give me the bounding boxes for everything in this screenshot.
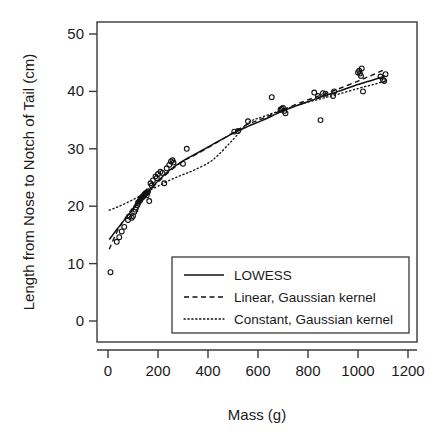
x-tick-label: 0	[104, 362, 112, 379]
y-axis-label: Length from Nose to Notch of Tail (cm)	[20, 54, 37, 311]
x-axis-label: Mass (g)	[228, 406, 286, 423]
legend: LOWESSLinear, Gaussian kernelConstant, G…	[172, 257, 409, 333]
plot-background	[0, 0, 446, 443]
y-tick-label: 0	[76, 312, 84, 329]
x-tick-label: 800	[295, 362, 320, 379]
chart-page: 01020304050 020040060080010001200 Mass (…	[0, 0, 446, 443]
x-tick-label: 200	[145, 362, 170, 379]
y-tick-label: 40	[67, 82, 84, 99]
scatter-plot: 01020304050 020040060080010001200 Mass (…	[0, 0, 446, 443]
legend-label: Constant, Gaussian kernel	[234, 312, 393, 327]
y-tick-label: 50	[67, 25, 84, 42]
x-tick-label: 1200	[391, 362, 424, 379]
y-tick-label: 10	[67, 255, 84, 272]
legend-label: LOWESS	[234, 268, 292, 283]
x-tick-label: 400	[195, 362, 220, 379]
x-tick-label: 1000	[341, 362, 374, 379]
x-tick-label: 600	[245, 362, 270, 379]
y-tick-label: 30	[67, 140, 84, 157]
y-tick-label: 20	[67, 197, 84, 214]
legend-label: Linear, Gaussian kernel	[234, 290, 376, 305]
